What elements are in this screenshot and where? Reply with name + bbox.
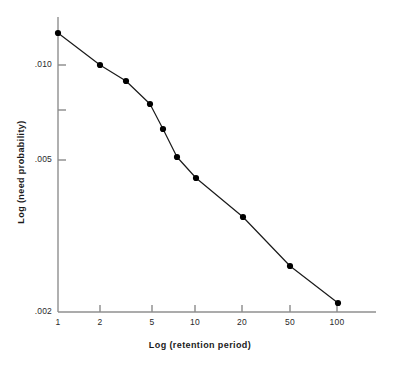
y-tick-label: .005 bbox=[8, 154, 52, 164]
data-series-markers bbox=[55, 30, 341, 306]
data-point-marker bbox=[123, 78, 129, 84]
data-point-marker bbox=[193, 175, 199, 181]
y-tick-label: .002 bbox=[8, 306, 52, 316]
x-tick-marks bbox=[100, 305, 337, 312]
x-tick-label: 2 bbox=[80, 317, 120, 327]
data-point-marker bbox=[97, 62, 103, 68]
x-axis-title: Log (retention period) bbox=[0, 340, 400, 350]
y-tick-marks bbox=[58, 65, 66, 160]
data-point-marker bbox=[287, 263, 293, 269]
figure-canvas: .010.005.002 125102050100 Log (retention… bbox=[0, 0, 400, 368]
x-tick-label: 20 bbox=[222, 317, 262, 327]
data-point-marker bbox=[55, 30, 61, 36]
data-point-marker bbox=[160, 126, 166, 132]
y-axis-title: Log (need probability) bbox=[16, 107, 26, 237]
x-tick-label: 5 bbox=[132, 317, 172, 327]
y-tick-label: .010 bbox=[8, 59, 52, 69]
data-point-marker bbox=[147, 101, 153, 107]
axis-lines bbox=[58, 17, 376, 312]
data-series-line bbox=[58, 33, 338, 303]
x-tick-label: 100 bbox=[317, 317, 357, 327]
x-tick-label: 10 bbox=[175, 317, 215, 327]
data-point-marker bbox=[335, 300, 341, 306]
chart-plot-area bbox=[0, 0, 400, 368]
x-tick-label: 1 bbox=[38, 317, 78, 327]
data-point-marker bbox=[174, 154, 180, 160]
data-point-marker bbox=[240, 214, 246, 220]
x-tick-label: 50 bbox=[270, 317, 310, 327]
